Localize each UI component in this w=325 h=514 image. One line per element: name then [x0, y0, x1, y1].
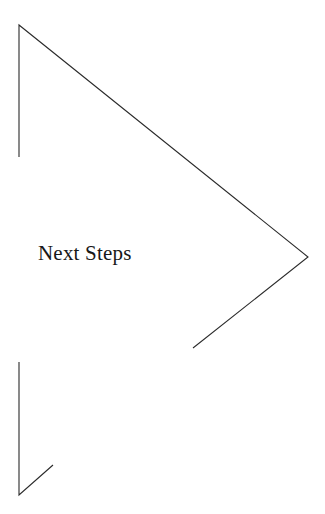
caption-next-steps: Next Steps: [38, 240, 132, 266]
upper-chevron-outline: [19, 25, 308, 348]
diagram-canvas: Next Steps: [0, 0, 325, 514]
lower-arrow-outline: [19, 362, 53, 495]
